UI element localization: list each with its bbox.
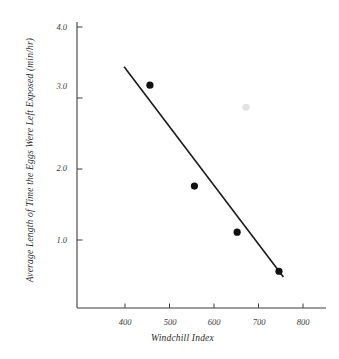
axis-lines bbox=[77, 22, 326, 308]
trend-line-layer bbox=[124, 67, 283, 277]
data-point-observations-0 bbox=[146, 82, 153, 89]
data-points-layer bbox=[146, 82, 282, 275]
data-point-observations-2 bbox=[234, 229, 241, 236]
data-point-observations-3 bbox=[275, 268, 282, 275]
plot-canvas bbox=[0, 0, 339, 359]
data-point-faint-outlier-0 bbox=[242, 104, 249, 111]
data-point-observations-1 bbox=[191, 182, 198, 189]
scatter-plot-figure: Average Length of Time the Eggs Were Lef… bbox=[0, 0, 339, 359]
regression-line bbox=[124, 67, 283, 277]
axis-ticks bbox=[77, 27, 303, 308]
